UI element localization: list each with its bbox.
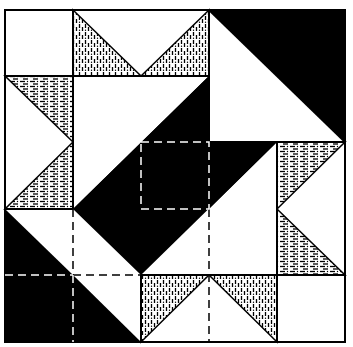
quilt-block-diagram [0, 0, 353, 347]
black-square-bottom-left [5, 275, 73, 342]
